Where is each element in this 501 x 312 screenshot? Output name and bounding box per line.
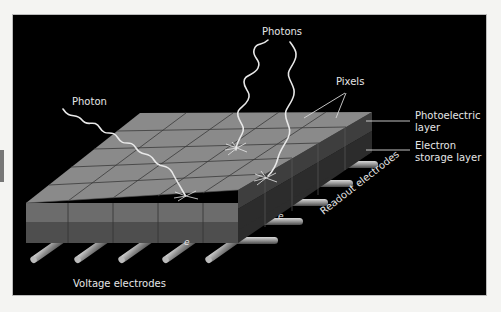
label-photon: Photon: [72, 96, 107, 107]
sensor-front-face: [26, 203, 238, 243]
label-voltage-electrodes: Voltage electrodes: [73, 278, 166, 289]
label-electron-storage-1: Electron: [415, 140, 456, 151]
label-photoelectric-layer-2: layer: [415, 122, 440, 133]
electron-symbol-front: e: [184, 237, 190, 248]
label-pixels: Pixels: [336, 76, 364, 87]
label-electron-storage-2: storage layer: [415, 152, 481, 163]
label-photoelectric-layer-1: Photoelectric: [415, 110, 480, 121]
label-photons: Photons: [262, 26, 302, 37]
electron-symbol-side: e: [278, 211, 284, 222]
